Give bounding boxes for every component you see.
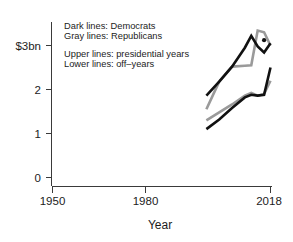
x-tick-label-1980: 1980	[133, 195, 159, 207]
chart-container: $3bn 2 1 0 1950 1980 2018 Year Dark line…	[0, 0, 293, 242]
legend-note-presidential: Upper lines: presidential years	[64, 49, 189, 59]
legend-note-offyears: Lower lines: off–years	[64, 59, 155, 69]
x-tick-label-2018: 2018	[256, 195, 282, 207]
y-tick-label-2: 2	[35, 84, 41, 96]
y-tick-label-1: 1	[35, 128, 41, 140]
legend-note-democrats: Dark lines: Democrats	[64, 21, 156, 31]
x-tick-label-1950: 1950	[40, 195, 66, 207]
legend-note-republicans: Gray lines: Republicans	[64, 31, 163, 41]
x-axis-title: Year	[148, 218, 172, 232]
endpoint-marker-dot	[262, 38, 266, 42]
line-chart: $3bn 2 1 0 1950 1980 2018 Year Dark line…	[0, 0, 293, 242]
series-line-democrats-offyears	[206, 68, 270, 130]
series-line-republicans-presidential	[206, 31, 270, 110]
y-tick-label-3bn: $3bn	[15, 40, 41, 52]
y-tick-label-0: 0	[35, 172, 41, 184]
